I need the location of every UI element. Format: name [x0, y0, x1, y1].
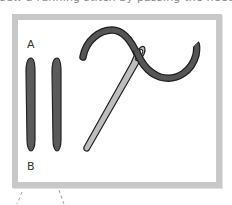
label-b: B — [27, 160, 35, 173]
sewing-illustration — [0, 0, 232, 205]
fabric-strip-right — [52, 58, 61, 151]
label-a: A — [27, 38, 35, 51]
thread — [83, 30, 138, 57]
guide-dashes — [17, 190, 64, 204]
fabric-strip-left — [26, 58, 35, 151]
needle — [84, 46, 145, 151]
